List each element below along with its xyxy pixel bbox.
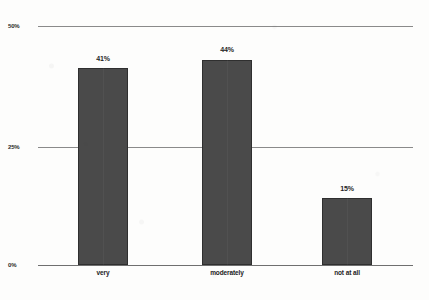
category-label-moderately: moderately	[192, 270, 262, 277]
bar-value-moderately: 44%	[202, 46, 252, 53]
bar-not-at-all	[322, 198, 372, 265]
bar-value-very: 41%	[78, 55, 128, 62]
bar-moderately	[202, 60, 252, 265]
bar-very	[78, 68, 128, 265]
y-tick-label-25: 25%	[8, 144, 34, 150]
y-tick-label-50: 50%	[8, 23, 34, 29]
bar-value-not-at-all: 15%	[322, 185, 372, 192]
y-tick-label-0: 0%	[8, 262, 34, 268]
plot-area: 50% 25% 0% 41% very 44% moderately 15% n…	[0, 0, 429, 300]
gridline-50	[38, 26, 413, 27]
category-label-very: very	[73, 270, 133, 277]
bar-chart: 50% 25% 0% 41% very 44% moderately 15% n…	[0, 0, 429, 300]
axis-baseline-0	[38, 265, 413, 266]
category-label-not-at-all: not at all	[312, 270, 382, 277]
